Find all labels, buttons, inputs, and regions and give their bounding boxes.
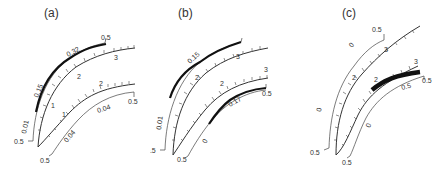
end-label: 0.5 [128, 98, 138, 105]
segment-label: 0.01 [155, 116, 164, 131]
outer-scale-ticks [38, 45, 134, 130]
segment-label: 0.17 [227, 95, 242, 108]
end-label: 0.5 [262, 90, 272, 97]
end-label: 0.5 [101, 34, 111, 41]
segment-label: 0.04 [96, 103, 111, 114]
scale-label: 2 [99, 80, 103, 87]
segment-label: 0 [347, 41, 355, 49]
scale-label: 1 [51, 102, 55, 109]
panel-c-diagram: 0.5 0.5 2 3 0 0 0.5 0.5 2 3 0 0.5 [296, 0, 446, 172]
scale-label: 3 [264, 66, 268, 73]
scale-label: 2 [352, 74, 356, 81]
end-label: 0.5 [177, 156, 187, 163]
panel-b: (b) 0.5 2 3 0.01 0.15 [150, 0, 300, 172]
scale-label: 3 [114, 54, 118, 61]
panel-c: (c) 0.5 0.5 2 3 0 0 [296, 0, 446, 172]
segment-label: 0.5 [400, 82, 411, 91]
segment-label: 0.01 [20, 119, 30, 134]
scale-label: 3 [384, 46, 388, 53]
end-label: 0.5 [150, 147, 156, 154]
end-label: 0.5 [342, 159, 352, 166]
scale-label: 2 [374, 76, 378, 83]
scale-label: 2 [77, 73, 81, 80]
segment-label: 0 [315, 107, 323, 112]
scale-label: 2 [220, 80, 224, 87]
end-label: 0.5 [422, 77, 432, 84]
segment-label: 0 [201, 138, 209, 145]
end-label: 0.5 [40, 157, 50, 164]
panel-a-diagram: 0.5 0.5 1 2 3 0.01 0.15 0.32 0.5 0.5 1 2… [0, 0, 150, 172]
panel-b-diagram: 0.5 2 3 0.01 0.15 0.5 0.5 2 3 0 0.17 [150, 0, 300, 172]
end-label: 0.5 [310, 149, 320, 156]
end-label: 0.5 [372, 26, 382, 33]
segment-label: 0 [364, 122, 372, 128]
end-label: 0.5 [14, 138, 24, 145]
scale-label: 3 [414, 58, 418, 65]
scale-label: 1 [62, 111, 66, 118]
inner-scale-ticks [48, 81, 129, 137]
scale-label: 2 [195, 74, 199, 81]
panel-a: (a) 0.5 0.5 1 2 3 0.01 0.15 0.32 [0, 0, 150, 172]
segment-label: 0.04 [62, 129, 76, 144]
scale-label: 3 [236, 53, 240, 60]
